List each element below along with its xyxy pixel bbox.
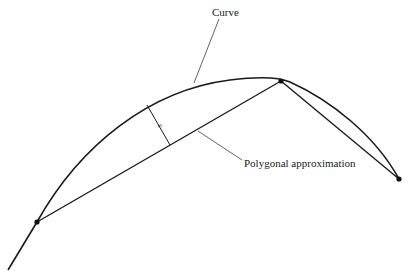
vertex-right — [396, 176, 401, 181]
polygon-leader-line — [198, 131, 242, 160]
curve-polygon-diagram: ε Curve Polygonal approximation — [0, 0, 409, 277]
vertex-left — [34, 219, 39, 224]
vertex-top — [278, 78, 283, 83]
polygonal-approximation-label: Polygonal approximation — [244, 157, 356, 169]
curve-leader-line — [194, 19, 219, 83]
curve-label: Curve — [212, 6, 239, 18]
curve-path — [8, 78, 399, 270]
